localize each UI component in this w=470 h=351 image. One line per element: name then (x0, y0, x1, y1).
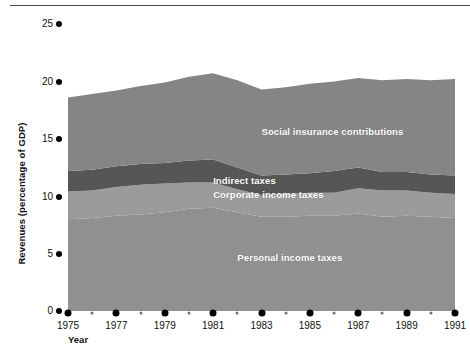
x-minor-tick-dot-icon (187, 312, 190, 315)
x-tick-label-1985: 1985 (299, 320, 321, 331)
x-minor-tick-dot-icon (284, 312, 287, 315)
y-tick-dot-icon (56, 136, 62, 142)
y-tick-10: 10 (42, 190, 62, 202)
x-tick-label-1991: 1991 (444, 320, 466, 331)
area-social-insurance-contributions (68, 73, 455, 175)
x-minor-tick-dot-icon (381, 312, 384, 315)
chart-figure: 0510152025 Revenues (percentage of GDP) … (0, 0, 470, 351)
x-minor-tick-dot-icon (429, 312, 432, 315)
y-tick-label: 10 (42, 191, 53, 203)
y-tick-15: 15 (42, 133, 62, 145)
y-axis-ticks: 0510152025 (0, 0, 62, 351)
x-tick-label-1979: 1979 (154, 320, 176, 331)
y-tick-label: 0 (47, 305, 53, 317)
x-tick-dot-icon-1979 (161, 310, 168, 317)
x-tick-label-1989: 1989 (396, 320, 418, 331)
y-tick-25: 25 (42, 18, 62, 30)
y-tick-dot-icon (56, 308, 62, 314)
y-tick-5: 5 (47, 248, 62, 260)
x-tick-label-1981: 1981 (202, 320, 224, 331)
x-tick-dot-icon-1981 (210, 310, 217, 317)
y-tick-label: 15 (42, 133, 53, 145)
y-tick-dot-icon (56, 79, 62, 85)
x-tick-label-1983: 1983 (250, 320, 272, 331)
x-tick-dot-icon-1987 (355, 310, 362, 317)
y-tick-dot-icon (56, 251, 62, 257)
y-axis-title: Revenues (percentage of GDP) (16, 79, 27, 309)
x-minor-tick-dot-icon (91, 312, 94, 315)
y-tick-label: 20 (42, 76, 53, 88)
y-tick-0: 0 (47, 305, 62, 317)
x-tick-dot-icon-1985 (306, 310, 313, 317)
x-tick-dot-icon-1977 (113, 310, 120, 317)
x-tick-label-1977: 1977 (105, 320, 127, 331)
band-label-personal-income-taxes: Personal income taxes (237, 252, 342, 263)
y-tick-20: 20 (42, 75, 62, 87)
x-tick-label-1975: 1975 (57, 320, 79, 331)
x-axis-title: Year (68, 334, 88, 345)
band-label-social-insurance-contributions: Social insurance contributions (262, 126, 404, 137)
band-label-corporate-income-taxes: Corporate income taxes (213, 189, 323, 200)
band-label-indirect-taxes: Indirect taxes (213, 175, 276, 186)
x-minor-tick-dot-icon (139, 312, 142, 315)
y-tick-dot-icon (56, 194, 62, 200)
x-tick-dot-icon-1983 (258, 310, 265, 317)
y-tick-label: 5 (47, 248, 53, 260)
y-tick-label: 25 (42, 18, 53, 30)
x-minor-tick-dot-icon (236, 312, 239, 315)
x-tick-label-1987: 1987 (347, 320, 369, 331)
x-tick-dot-icon-1991 (452, 310, 459, 317)
y-tick-dot-icon (56, 21, 62, 27)
x-minor-tick-dot-icon (333, 312, 336, 315)
x-tick-dot-icon-1989 (403, 310, 410, 317)
x-tick-dot-icon-1975 (65, 310, 72, 317)
